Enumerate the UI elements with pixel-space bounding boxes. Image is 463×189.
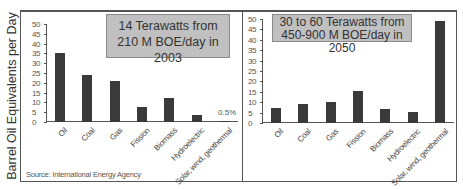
y-tick-label: 0 xyxy=(248,119,258,128)
y-tick-label: 5 xyxy=(32,108,42,117)
y-tick-label: 10 xyxy=(32,98,42,107)
bar-gas xyxy=(110,81,120,122)
y-tick-label: 0 xyxy=(32,118,42,127)
source-note: Source: International Energy Agency xyxy=(26,170,141,179)
y-tick-label: 10 xyxy=(248,98,258,107)
y-tick-mark xyxy=(44,102,47,103)
bar-biomass xyxy=(164,98,174,122)
y-tick-mark xyxy=(260,40,263,41)
y-tick-mark xyxy=(260,61,263,62)
y-tick-mark xyxy=(44,93,47,94)
y-tick-mark xyxy=(44,53,47,54)
y-tick-mark xyxy=(260,29,263,30)
y-tick-mark xyxy=(260,113,263,114)
bar-hydroelectric xyxy=(192,115,202,122)
y-tick-label: 15 xyxy=(32,88,42,97)
y-tick-label: 25 xyxy=(32,69,42,78)
y-tick-label: 40 xyxy=(32,39,42,48)
y-tick-label: 45 xyxy=(248,25,258,34)
y-tick-mark xyxy=(260,50,263,51)
y-tick-label: 25 xyxy=(248,67,258,76)
bar-oil xyxy=(55,53,65,122)
callout-line-2: 210 M BOE/day in 2003 xyxy=(113,34,223,66)
bar-gas xyxy=(326,102,336,123)
bar-oil xyxy=(271,108,281,123)
y-tick-label: 35 xyxy=(32,49,42,58)
y-tick-label: 45 xyxy=(32,29,42,38)
y-tick-mark xyxy=(44,122,47,123)
y-tick-label: 30 xyxy=(248,56,258,65)
y-tick-label: 50 xyxy=(248,15,258,24)
y-tick-mark xyxy=(260,102,263,103)
callout-line-2: 450-900 M BOE/day in 2050 xyxy=(277,29,407,55)
y-tick-mark xyxy=(260,19,263,20)
panel-divider xyxy=(242,10,243,182)
bar-solar-wind-geothermal xyxy=(435,21,445,123)
bar-fission xyxy=(353,91,363,123)
solar-share-annotation: 0.5% xyxy=(218,108,236,117)
y-tick-mark xyxy=(44,34,47,35)
bar-biomass xyxy=(380,109,390,123)
y-tick-label: 50 xyxy=(32,20,42,29)
callout-2050: 30 to 60 Terawatts from 450-900 M BOE/da… xyxy=(272,14,412,42)
callout-line-1: 14 Terawatts from xyxy=(113,18,223,34)
y-tick-label: 40 xyxy=(248,35,258,44)
y-axis-label: Barrel Oil Equivalents per Day xyxy=(5,11,21,181)
y-tick-mark xyxy=(44,44,47,45)
bar-fission xyxy=(137,107,147,122)
y-tick-mark xyxy=(260,81,263,82)
y-tick-label: 20 xyxy=(32,78,42,87)
bar-coal xyxy=(82,75,92,122)
y-tick-label: 35 xyxy=(248,46,258,55)
y-tick-mark xyxy=(44,63,47,64)
y-tick-mark xyxy=(44,112,47,113)
bar-hydroelectric xyxy=(408,112,418,123)
y-tick-mark xyxy=(260,92,263,93)
y-tick-label: 15 xyxy=(248,87,258,96)
bar-solar-wind-geothermal xyxy=(219,121,229,122)
y-tick-label: 30 xyxy=(32,59,42,68)
callout-2003: 14 Terawatts from 210 M BOE/day in 2003 xyxy=(106,14,230,58)
y-tick-mark xyxy=(44,73,47,74)
y-tick-mark xyxy=(44,83,47,84)
y-tick-mark xyxy=(260,123,263,124)
bar-coal xyxy=(298,104,308,123)
y-tick-label: 20 xyxy=(248,77,258,86)
y-tick-label: 5 xyxy=(248,108,258,117)
y-tick-mark xyxy=(260,71,263,72)
y-tick-mark xyxy=(44,24,47,25)
